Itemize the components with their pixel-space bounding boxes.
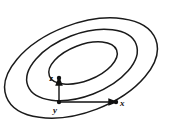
z-axis-label: z: [48, 73, 53, 83]
figure-container: z y x: [0, 0, 170, 137]
x-axis-label: x: [119, 98, 125, 108]
x-axis-tip-point: [114, 100, 118, 104]
origin-point: [57, 100, 61, 104]
ellipse-diagram: z y x: [0, 0, 170, 137]
z-axis-tip-point: [57, 76, 61, 80]
